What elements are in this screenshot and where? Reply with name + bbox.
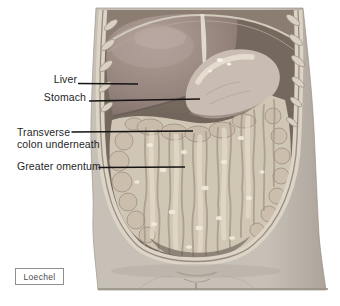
label-greater-omentum: Greater omentum — [17, 161, 127, 173]
artist-credit-text: Loechel — [24, 272, 56, 282]
anatomy-illustration — [0, 0, 340, 306]
label-transverse-colon-line2: colon underneath — [17, 139, 127, 151]
figure-abdominal-anatomy: Liver Stomach Transverse colon underneat… — [0, 0, 340, 306]
leader-line-liver — [78, 84, 138, 85]
label-liver: Liver — [0, 74, 77, 86]
artist-credit-box: Loechel — [15, 268, 64, 285]
label-transverse-colon: Transverse colon underneath — [17, 127, 127, 150]
label-stomach: Stomach — [0, 92, 86, 104]
label-transverse-colon-line1: Transverse — [17, 127, 127, 139]
